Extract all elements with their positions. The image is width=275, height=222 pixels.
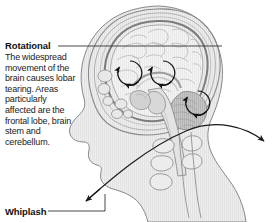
whiplash-callout-title: Whiplash (5, 206, 46, 217)
figure-root: Rotational The widespread movement of th… (0, 0, 275, 222)
rotational-callout-body: The widespread movement of the brain cau… (5, 52, 77, 147)
midbrain-structures (130, 91, 150, 110)
whiplash-leader-line (48, 194, 105, 211)
rotational-callout-title: Rotational (5, 40, 50, 51)
